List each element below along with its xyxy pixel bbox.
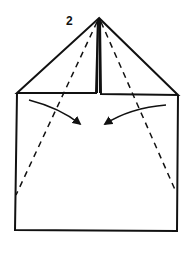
fold-diagram-svg (0, 0, 191, 255)
left-dashed-fold-line (16, 22, 97, 195)
left-triangle-flap (17, 19, 98, 93)
right-triangle-flap (100, 19, 178, 95)
right-fold-arrow (105, 105, 166, 124)
square-base (15, 93, 178, 231)
center-slit (97, 19, 100, 93)
right-dashed-fold-line (101, 22, 176, 192)
